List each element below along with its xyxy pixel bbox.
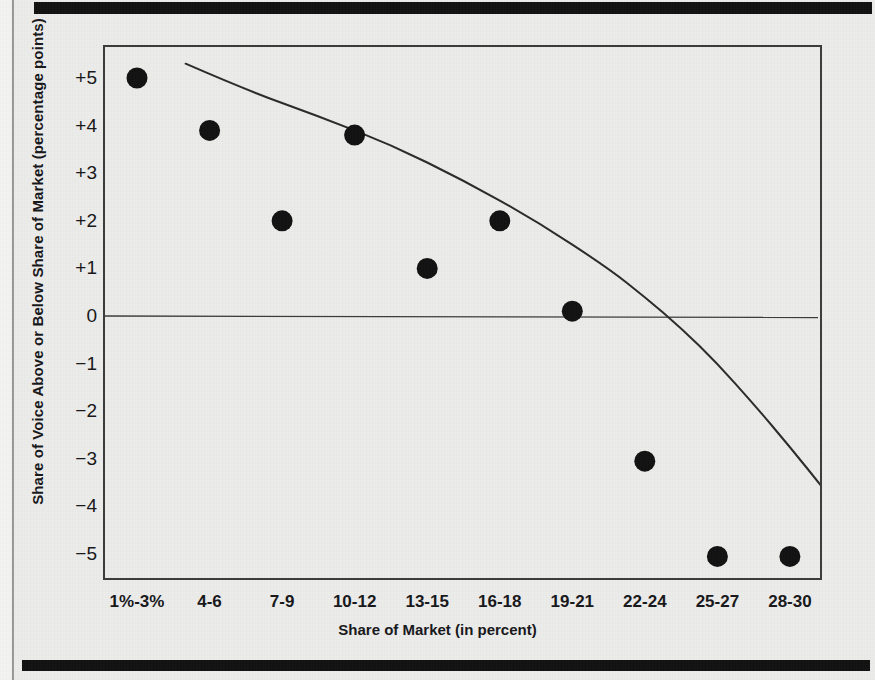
x-axis-tick-label: 22-24	[623, 592, 666, 612]
data-point-marker	[272, 210, 293, 231]
x-axis-title: Share of Market (in percent)	[0, 621, 875, 638]
x-axis-tick-label: 1%-3%	[110, 592, 165, 612]
y-axis-tick-label: +1	[51, 258, 97, 277]
y-axis-tick-label: 0	[51, 306, 97, 325]
x-axis-tick-label: 13-15	[405, 592, 448, 612]
figure-page: Share of Voice Above or Below Share of M…	[0, 0, 875, 680]
x-axis-tick-label: 10-12	[333, 592, 376, 612]
x-axis-tick-label: 25-27	[696, 592, 739, 612]
bottom-rule-bar	[22, 660, 870, 671]
y-axis-tick-label: +5	[51, 68, 97, 87]
x-axis-tick-label: 4-6	[197, 592, 222, 612]
data-point-marker	[562, 301, 583, 322]
y-axis-title: Share of Voice Above or Below Share of M…	[29, 0, 46, 542]
y-axis-tick-label: +2	[51, 211, 97, 230]
y-axis-tick-label: −1	[51, 354, 97, 373]
x-axis-tick-label: 7-9	[270, 592, 295, 612]
data-point-marker	[707, 546, 728, 567]
data-point-marker	[344, 125, 365, 146]
trend-line	[186, 64, 820, 573]
data-point-marker	[634, 451, 655, 472]
data-point-marker	[127, 68, 148, 89]
x-axis-tick-label: 19-21	[551, 592, 594, 612]
y-axis-tick-label: −3	[51, 449, 97, 468]
data-point-marker	[489, 210, 510, 231]
top-rule-bar	[34, 2, 872, 14]
y-axis-tick-label: −4	[51, 496, 97, 515]
page-margin	[0, 0, 11, 680]
y-axis-tick-label: +3	[51, 163, 97, 182]
scatter-plot-canvas	[105, 47, 820, 578]
page-left-rule	[12, 0, 14, 680]
y-axis-tick-label: −5	[51, 544, 97, 563]
data-point-marker	[779, 546, 800, 567]
data-point-marker	[417, 258, 438, 279]
zero-line	[105, 316, 818, 318]
y-axis-tick-label: −2	[51, 401, 97, 420]
data-point-marker	[199, 120, 220, 141]
x-axis-tick-label: 16-18	[478, 592, 521, 612]
y-axis-tick-label: +4	[51, 116, 97, 135]
x-axis-tick-label: 28-30	[768, 592, 811, 612]
plot-area	[103, 45, 822, 580]
